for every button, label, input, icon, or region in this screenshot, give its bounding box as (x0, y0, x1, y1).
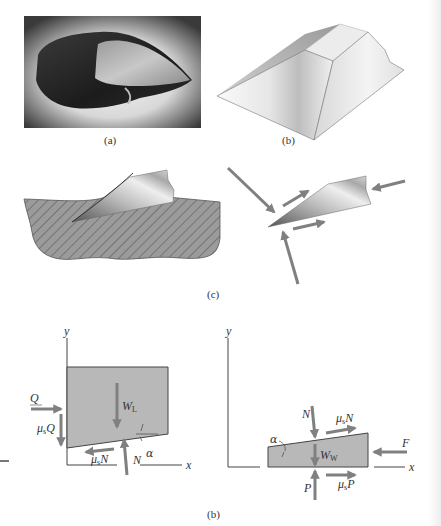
x-axis-label-left: x (185, 458, 192, 472)
figure-canvas: (a) (b) (c) y x Q (0, 0, 441, 526)
force-arrow-lower (283, 232, 298, 284)
label-Q: Q (30, 391, 39, 405)
panel-b-top: (b) (217, 24, 404, 147)
label-mu-s-Q: μsQ (36, 421, 55, 436)
x-axis-label-right: x (408, 460, 415, 474)
force-arrow-N-left (124, 440, 127, 475)
y-axis-label-right: y (225, 324, 232, 338)
label-alpha-right: α (270, 433, 278, 446)
label-P: P (303, 481, 312, 495)
caption-c: (c) (207, 288, 220, 301)
force-arrow-right (373, 181, 405, 189)
panel-a: (a) (24, 16, 201, 147)
label-mu-s-N-left: μsN (90, 452, 109, 467)
label-alpha-left: α (146, 447, 154, 460)
caption-b-bottom: (b) (207, 508, 220, 521)
wedge-body-right (268, 433, 368, 467)
isolated-flake (268, 176, 371, 227)
force-arrow-mu-s-N-right (326, 428, 355, 433)
label-N-left: N (132, 453, 142, 467)
y-axis-label-left: y (63, 324, 70, 338)
force-arrow-upper-left (228, 168, 274, 212)
label-N-right: N (301, 407, 311, 421)
friction-arrow-lower (293, 222, 324, 229)
caption-a: (a) (104, 134, 117, 147)
label-mu-s-N-right: μsN (335, 411, 354, 426)
caption-b-top: (b) (282, 134, 295, 147)
force-arrow-N-right (312, 406, 315, 437)
panel-b-bottom: y x Q μsQ WL α μsN N (0, 324, 415, 521)
label-mu-s-P: μsP (337, 477, 355, 492)
fbd-left: y x Q μsQ WL α μsN N (30, 324, 192, 475)
axes-right (228, 338, 260, 467)
fbd-right: y x N μsN α WW F P (225, 324, 415, 500)
panel-c: (c) (24, 168, 405, 301)
label-F: F (401, 436, 410, 450)
